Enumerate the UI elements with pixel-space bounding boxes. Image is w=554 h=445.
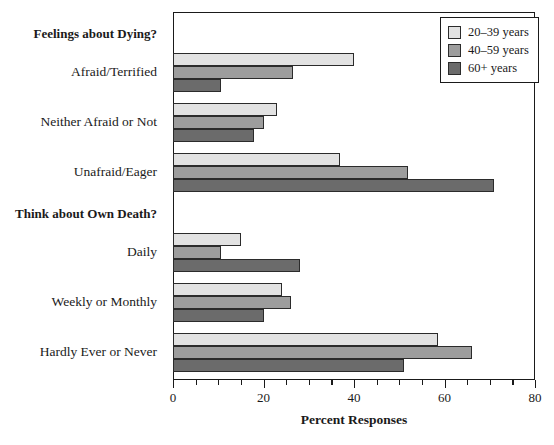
legend-swatch-icon <box>448 62 461 75</box>
section-header: Think about Own Death? <box>0 206 165 222</box>
category-label: Daily <box>0 244 165 260</box>
section-header: Feelings about Dying? <box>0 26 165 42</box>
bar <box>173 166 408 179</box>
legend-item-label: 60+ years <box>468 61 517 76</box>
x-tick-minor <box>196 380 197 385</box>
x-tick-major <box>264 380 265 388</box>
bar <box>173 53 354 66</box>
legend-item: 40–59 years <box>448 41 529 59</box>
bar <box>173 359 404 372</box>
bar <box>173 259 300 272</box>
bar <box>173 103 277 116</box>
x-tick-minor <box>490 380 491 385</box>
legend-swatch-icon <box>448 44 461 57</box>
x-tick-major <box>354 380 355 388</box>
category-label: Neither Afraid or Not <box>0 114 165 130</box>
category-label: Weekly or Monthly <box>0 294 165 310</box>
x-tick-minor <box>377 380 378 385</box>
legend: 20–39 years 40–59 years 60+ years <box>440 17 539 83</box>
x-tick-minor <box>399 380 400 385</box>
bar <box>173 116 264 129</box>
x-tick-label: 40 <box>348 390 361 406</box>
bar <box>173 283 282 296</box>
x-tick-major <box>445 380 446 388</box>
x-tick-label: 60 <box>438 390 451 406</box>
x-axis-title: Percent Responses <box>173 412 535 428</box>
x-tick-label: 20 <box>257 390 270 406</box>
bar <box>173 129 254 142</box>
bar <box>173 153 340 166</box>
x-tick-label: 0 <box>170 390 177 406</box>
chart-container: Feelings about Dying?Afraid/TerrifiedNei… <box>0 0 554 445</box>
bar <box>173 66 293 79</box>
bar <box>173 79 221 92</box>
category-label: Hardly Ever or Never <box>0 344 165 360</box>
bar <box>173 333 438 346</box>
bar <box>173 233 241 246</box>
x-tick-minor <box>218 380 219 385</box>
x-tick-label: 80 <box>529 390 542 406</box>
legend-item: 20–39 years <box>448 23 529 41</box>
x-tick-minor <box>309 380 310 385</box>
x-tick-major <box>535 380 536 388</box>
bar <box>173 246 221 259</box>
x-tick-minor <box>241 380 242 385</box>
x-tick-minor <box>467 380 468 385</box>
x-tick-minor <box>286 380 287 385</box>
category-label: Unafraid/Eager <box>0 164 165 180</box>
x-tick-minor <box>512 380 513 385</box>
x-tick-major <box>173 380 174 388</box>
legend-swatch-icon <box>448 26 461 39</box>
category-label: Afraid/Terrified <box>0 64 165 80</box>
bar <box>173 346 472 359</box>
x-tick-minor <box>331 380 332 385</box>
bar <box>173 309 264 322</box>
legend-item-label: 40–59 years <box>468 43 529 58</box>
legend-item: 60+ years <box>448 59 529 77</box>
legend-item-label: 20–39 years <box>468 25 529 40</box>
bar <box>173 296 291 309</box>
bar <box>173 179 494 192</box>
x-tick-minor <box>422 380 423 385</box>
